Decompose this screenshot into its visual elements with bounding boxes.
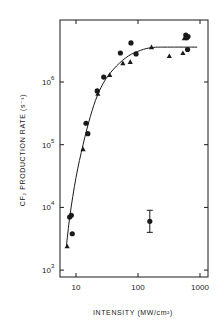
x-axis: 101001000 [72, 20, 210, 292]
triangle-marker [149, 45, 154, 50]
y-tick-exponent: 4 [51, 200, 55, 206]
circle-marker [128, 40, 133, 45]
circle-marker [70, 231, 75, 236]
data-points [65, 32, 191, 248]
x-axis-title: INTENSITY (MW/cm²) [93, 309, 173, 317]
circle-marker [133, 51, 138, 56]
triangle-marker [65, 244, 70, 249]
x-tick-label: 1000 [191, 283, 209, 292]
y-tick-exponent: 3 [51, 263, 55, 269]
circle-marker [118, 50, 123, 55]
triangle-marker [180, 50, 185, 55]
y-axis-title: CF₂ PRODUCTION RATE (s⁻¹) [19, 94, 27, 206]
y-tick-exponent: 5 [51, 138, 55, 144]
circle-marker [185, 47, 190, 52]
circle-marker [101, 74, 106, 79]
y-tick-exponent: 6 [51, 75, 55, 81]
triangle-marker [128, 59, 133, 64]
circle-marker [83, 121, 88, 126]
circle-marker [185, 34, 190, 39]
x-tick-label: 10 [72, 283, 81, 292]
triangle-marker [167, 53, 172, 58]
circle-marker [69, 213, 74, 218]
circle-marker [147, 219, 152, 224]
triangle-marker [80, 147, 85, 152]
x-tick-label: 100 [131, 283, 145, 292]
triangle-marker [107, 72, 112, 77]
fit-curve [66, 47, 197, 246]
circle-marker [85, 131, 90, 136]
cf2-production-rate-chart: 101001000 103104105106 INTENSITY (MW/cm²… [0, 0, 223, 332]
